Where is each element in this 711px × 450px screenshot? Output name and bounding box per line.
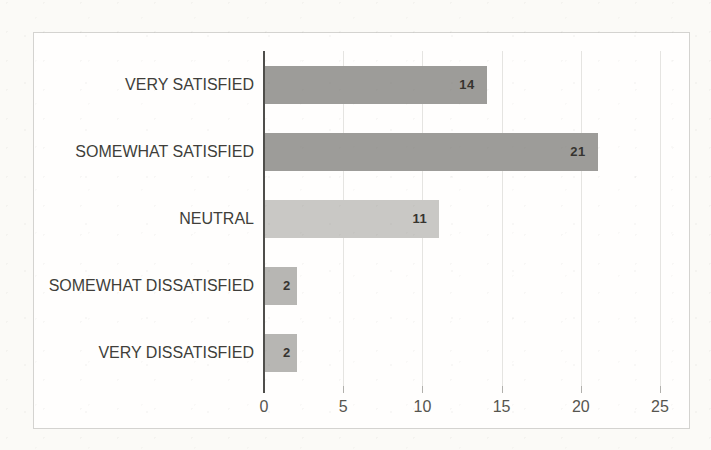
tick-mark-20 <box>581 386 582 393</box>
category-label-very-dissatisfied: VERY DISSATISFIED <box>34 343 254 363</box>
scanned-page: 051015202514VERY SATISFIED21SOMEWHAT SAT… <box>0 0 711 450</box>
tick-mark-15 <box>502 386 503 393</box>
data-label-somewhat-dissatisfied: 2 <box>283 278 291 293</box>
x-tick-label-10: 10 <box>402 398 442 416</box>
gridline-20 <box>581 51 582 386</box>
bar-somewhat-satisfied: 21 <box>265 133 598 171</box>
gridline-25 <box>660 51 661 386</box>
category-label-neutral: NEUTRAL <box>34 209 254 229</box>
tick-mark-25 <box>660 386 661 393</box>
category-label-very-satisfied: VERY SATISFIED <box>34 75 254 95</box>
x-tick-label-20: 20 <box>561 398 601 416</box>
data-label-very-satisfied: 14 <box>459 77 474 92</box>
category-label-somewhat-satisfied: SOMEWHAT SATISFIED <box>34 142 254 162</box>
plot-area: 051015202514VERY SATISFIED21SOMEWHAT SAT… <box>34 33 689 428</box>
tick-mark-10 <box>422 386 423 393</box>
x-tick-label-0: 0 <box>244 398 284 416</box>
data-label-neutral: 11 <box>412 211 427 226</box>
gridline-15 <box>502 51 503 386</box>
data-label-very-dissatisfied: 2 <box>283 345 291 360</box>
x-tick-label-5: 5 <box>323 398 363 416</box>
category-label-somewhat-dissatisfied: SOMEWHAT DISSATISFIED <box>34 276 254 296</box>
bar-somewhat-dissatisfied: 2 <box>265 267 297 305</box>
tick-mark-5 <box>343 386 344 393</box>
x-tick-label-25: 25 <box>640 398 680 416</box>
bar-very-dissatisfied: 2 <box>265 334 297 372</box>
bar-neutral: 11 <box>265 200 439 238</box>
bar-very-satisfied: 14 <box>265 66 487 104</box>
bar-chart: 051015202514VERY SATISFIED21SOMEWHAT SAT… <box>33 32 690 429</box>
data-label-somewhat-satisfied: 21 <box>570 144 585 159</box>
x-tick-label-15: 15 <box>482 398 522 416</box>
